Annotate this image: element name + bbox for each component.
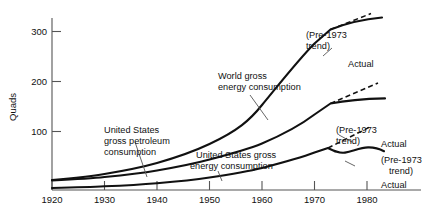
us-energy-trend-label-line2: trend) [336, 136, 360, 146]
x-axis: 1920 1930 1940 1950 1960 1970 1980 [41, 181, 421, 205]
us-petroleum-label-line1: United States [104, 125, 160, 135]
y-axis: 300 200 100 Quads [7, 18, 61, 190]
us-petroleum-label-line2: gross petroleum [104, 136, 170, 146]
us-petroleum-trend-label-line2: trend) [389, 166, 413, 176]
x-tick-label-1950: 1950 [199, 194, 220, 205]
world-label-line2: energy consumption [218, 82, 301, 92]
x-tick-label-1960: 1960 [251, 194, 272, 205]
us-energy-actual-label: Actual [381, 139, 407, 149]
y-tick-label-200: 200 [31, 76, 47, 87]
annotation-world-trend: (Pre-1973 trend) [306, 30, 347, 51]
annotation-us-energy-trend: (Pre-1973 trend) [336, 125, 377, 146]
leader-us-petroleum-trend-label [345, 161, 355, 166]
annotation-us-energy: United States gross energy consumption [190, 150, 277, 171]
x-tick-label-1980: 1980 [356, 194, 377, 205]
x-tick-label-1920: 1920 [41, 194, 62, 205]
x-tick-label-1970: 1970 [304, 194, 325, 205]
y-tick-label-100: 100 [31, 126, 47, 137]
world-actual-label: Actual [348, 59, 374, 69]
x-tick-label-1930: 1930 [94, 194, 115, 205]
us-petroleum-label-line3: consumption [104, 147, 156, 157]
us-energy-label-line2: energy consumption [190, 161, 273, 171]
annotation-us-petroleum-trend: (Pre-1973 trend) [381, 155, 422, 176]
y-tick-label-300: 300 [31, 26, 47, 37]
annotation-us-petroleum: United States gross petroleum consumptio… [104, 125, 170, 157]
world-trend-label-line1: (Pre-1973 [306, 30, 347, 40]
us-petroleum-actual-label: Actual [381, 180, 407, 190]
world-trend-label-line2: trend) [306, 41, 330, 51]
us-petroleum-trend-label-line1: (Pre-1973 [381, 155, 422, 165]
us-energy-label-line1: United States gross [196, 150, 277, 160]
us-energy-trend-label-line1: (Pre-1973 [336, 125, 377, 135]
world-label-line1: World gross [218, 71, 267, 81]
x-tick-label-1940: 1940 [146, 194, 167, 205]
y-axis-title: Quads [7, 93, 18, 121]
energy-consumption-chart: 300 200 100 Quads 1920 1930 1940 1950 19… [0, 0, 444, 223]
